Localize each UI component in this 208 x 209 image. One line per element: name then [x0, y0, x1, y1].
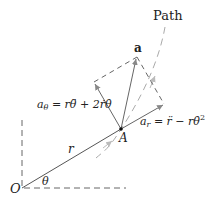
radius-line — [22, 129, 121, 188]
a-theta-expression: = rθ̈ + 2ṙθ̇ — [48, 98, 111, 111]
polar-acceleration-diagram: Path a aθ = rθ̈ + 2ṙθ̇ ar = r̈ − rθ̇2 A … — [0, 0, 208, 209]
transverse-acceleration-label: aθ = rθ̈ + 2ṙθ̇ — [37, 99, 112, 112]
point-A-label: A — [119, 132, 128, 144]
path-label: Path — [153, 9, 183, 22]
radius-label: r — [68, 143, 74, 155]
a-r-superscript: 2 — [200, 113, 205, 122]
radial-acceleration-label: ar = r̈ − rθ̇2 — [140, 114, 205, 129]
acceleration-vector — [121, 59, 136, 129]
parallelogram-top-left — [94, 57, 137, 82]
angle-theta-label: θ — [42, 176, 49, 187]
acceleration-label: a — [134, 42, 142, 54]
origin-label: O — [10, 182, 21, 195]
path-direction-arrow-lower — [103, 141, 112, 148]
a-r-expression: = r̈ − rθ̇ — [150, 115, 200, 128]
path-curve — [96, 27, 165, 158]
path-direction-arrow-upper — [150, 76, 155, 88]
parallelogram-top-right — [137, 57, 164, 104]
